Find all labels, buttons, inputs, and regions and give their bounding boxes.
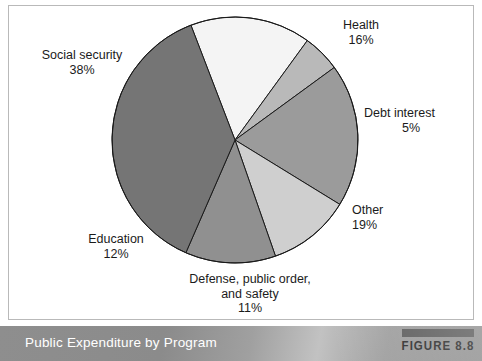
- pie-label-debt-interest-value: 5%: [364, 121, 458, 136]
- pie-label-other: Other 19%: [352, 203, 418, 232]
- pie-label-health-value: 16%: [318, 33, 404, 48]
- pie-label-social-security: Social security 38%: [20, 48, 144, 77]
- figure-caption-text: Public Expenditure by Program: [25, 335, 217, 350]
- pie-label-education-name: Education: [66, 232, 166, 247]
- figure-badge-label: FIGURE 8.8: [401, 339, 475, 353]
- pie-label-health: Health 16%: [318, 18, 404, 47]
- figure-number-badge: FIGURE 8.8: [398, 326, 478, 361]
- pie-label-education-value: 12%: [66, 247, 166, 262]
- pie-label-social-security-name: Social security: [20, 48, 144, 63]
- figure-badge-rule: [402, 329, 474, 337]
- pie-label-debt-interest-name: Debt interest: [364, 106, 476, 121]
- pie-label-education: Education 12%: [66, 232, 166, 261]
- pie-label-defense: Defense, public order, and safety 11%: [159, 272, 341, 316]
- pie-label-other-name: Other: [352, 203, 418, 218]
- pie-label-debt-interest: Debt interest 5%: [364, 106, 476, 135]
- pie-label-defense-value: 11%: [159, 301, 341, 316]
- pie-label-defense-name-line1: Defense, public order,: [159, 272, 341, 287]
- figure-container: Health 16% Debt interest 5% Other 19% De…: [0, 0, 482, 361]
- pie-label-other-value: 19%: [352, 218, 418, 233]
- figure-caption-bar: Public Expenditure by Program FIGURE 8.8: [0, 326, 482, 361]
- pie-label-health-name: Health: [318, 18, 404, 33]
- pie-label-defense-name-line2: and safety: [159, 287, 341, 302]
- pie-label-social-security-value: 38%: [20, 63, 144, 78]
